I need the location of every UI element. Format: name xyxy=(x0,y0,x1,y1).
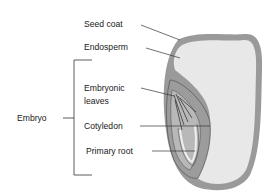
seed-diagram xyxy=(0,0,279,194)
cotyledon-label: Cotyledon xyxy=(84,121,123,131)
embryonic-leaves-label-line1: Embryonic xyxy=(84,83,125,93)
embryonic-leaves-label-line2: leaves xyxy=(84,96,109,106)
seed-coat-leader xyxy=(141,25,180,40)
embryo-bracket xyxy=(63,60,92,175)
primary-root-label: Primary root xyxy=(86,146,133,156)
seed-coat-label: Seed coat xyxy=(84,19,123,29)
endosperm-label: Endosperm xyxy=(84,42,128,52)
embryo-label: Embryo xyxy=(17,113,47,123)
